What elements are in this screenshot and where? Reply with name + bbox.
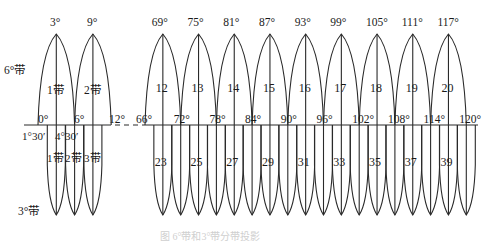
- zone-division-diagram: 6°带 3°带 3° 9° 1带 2带 0° 6° 12° 1°30′ 4°30…: [0, 0, 487, 242]
- three-zone-label-31: 31: [298, 155, 310, 169]
- apex-label-69: 69°: [152, 16, 169, 28]
- three-zone-label-3: 3带: [84, 152, 101, 164]
- apex-label-117: 117°: [437, 16, 459, 28]
- six-zone-label-19: 19: [406, 81, 418, 95]
- meridian-label-1-30: 1°30′: [22, 130, 45, 142]
- apex-label-105: 105°: [366, 16, 388, 28]
- six-zone-label-14: 14: [227, 81, 239, 95]
- apex-label-3: 3°: [50, 16, 61, 28]
- three-zone-label-39: 39: [440, 155, 452, 169]
- six-zone-label-2: 2带: [84, 84, 101, 96]
- apex-label-9: 9°: [87, 16, 98, 28]
- equator-tick-66: 66°: [136, 113, 153, 125]
- three-zone-label-35: 35: [369, 155, 381, 169]
- apex-label-93: 93°: [295, 16, 312, 28]
- three-degree-row-label: 3°带: [18, 205, 39, 217]
- apex-label-87: 87°: [259, 16, 276, 28]
- apex-label-99: 99°: [330, 16, 347, 28]
- equator-tick-96: 96°: [317, 113, 334, 125]
- six-degree-row-label: 6°带: [4, 64, 25, 76]
- six-zone-label-15: 15: [263, 81, 275, 95]
- six-zone-label-18: 18: [370, 81, 382, 95]
- equator-tick-84: 84°: [245, 113, 262, 125]
- six-zone-label-1: 1带: [47, 84, 64, 96]
- six-zone-label-17: 17: [334, 81, 346, 95]
- six-zone-label-12: 12: [156, 81, 168, 95]
- three-zone-label-25: 25: [191, 155, 203, 169]
- equator-tick-114: 114°: [424, 113, 446, 125]
- three-zone-label-33: 33: [333, 155, 345, 169]
- three-zone-label-27: 27: [226, 155, 238, 169]
- six-zone-label-16: 16: [299, 81, 311, 95]
- equator-tick-102: 102°: [352, 113, 374, 125]
- equator-tick-90: 90°: [281, 113, 298, 125]
- three-zone-label-23: 23: [155, 155, 167, 169]
- equator-tick-78: 78°: [209, 113, 226, 125]
- apex-label-75: 75°: [188, 16, 205, 28]
- apex-label-111: 111°: [402, 16, 423, 28]
- meridian-label-4-30: 4°30′: [55, 130, 78, 142]
- equator-tick-72: 72°: [174, 113, 191, 125]
- equator-tick-108: 108°: [388, 113, 410, 125]
- three-zone-label-37: 37: [405, 155, 417, 169]
- equator-tick-120: 120°: [459, 113, 481, 125]
- six-zone-label-13: 13: [192, 81, 204, 95]
- three-zone-label-29: 29: [262, 155, 274, 169]
- three-zone-label-1: 1带: [47, 152, 64, 164]
- equator-tick-6: 6°: [74, 113, 85, 125]
- equator-tick-0: 0°: [38, 113, 49, 125]
- figure-caption: 图 6°带和3°带分带投影: [160, 230, 261, 242]
- equator-tick-12: 12°: [109, 113, 126, 125]
- three-zone-label-2: 2带: [65, 152, 82, 164]
- six-zone-label-20: 20: [441, 81, 453, 95]
- apex-label-81: 81°: [223, 16, 240, 28]
